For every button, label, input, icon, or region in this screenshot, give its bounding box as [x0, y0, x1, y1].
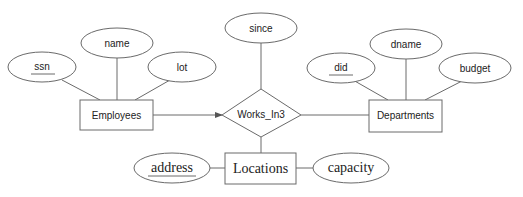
relationship-works-in3: Works_In3: [222, 89, 301, 137]
line-ssn-employees: [62, 80, 100, 100]
attribute-budget: budget: [439, 53, 511, 83]
entity-employees: Employees: [80, 100, 153, 130]
attribute-name-label: name: [104, 38, 129, 49]
entity-locations: Locations: [225, 153, 296, 184]
attribute-did: did: [307, 53, 375, 83]
attribute-address: address: [134, 153, 210, 183]
attribute-ssn: ssn: [8, 52, 76, 82]
entity-employees-label: Employees: [92, 110, 141, 121]
attribute-budget-label: budget: [460, 63, 491, 74]
attribute-capacity-label: capacity: [328, 160, 375, 175]
attribute-lot: lot: [148, 52, 216, 82]
entity-departments-label: Departments: [377, 110, 434, 121]
line-did-departments: [353, 80, 388, 100]
line-budget-departments: [425, 81, 462, 100]
attribute-address-label: address: [151, 160, 193, 175]
attribute-capacity: capacity: [313, 153, 389, 183]
er-diagram: ssn name lot Employees since Works_In3: [0, 0, 523, 197]
attribute-lot-label: lot: [177, 62, 188, 73]
line-lot-employees: [135, 80, 170, 100]
attribute-ssn-label: ssn: [34, 61, 50, 72]
entity-departments: Departments: [369, 100, 442, 132]
attribute-did-label: did: [334, 62, 347, 73]
entity-locations-label: Locations: [233, 161, 288, 176]
attribute-since-label: since: [249, 23, 273, 34]
attribute-since: since: [225, 13, 297, 43]
attribute-dname-label: dname: [391, 39, 422, 50]
relationship-works-in3-label: Works_In3: [237, 109, 285, 120]
attribute-dname: dname: [370, 29, 442, 59]
attribute-name: name: [81, 28, 153, 58]
